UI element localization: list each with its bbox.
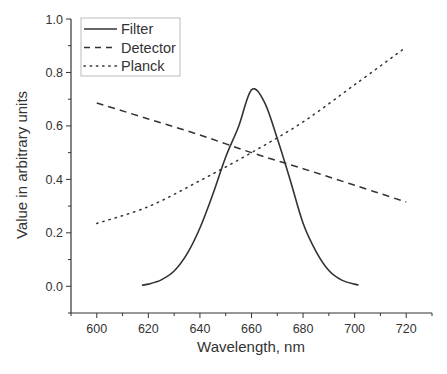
series-group [97,47,406,285]
y-tick-label: 0.0 [46,280,63,294]
x-tick-label: 640 [189,322,210,336]
y-tick-label: 1.0 [46,13,63,27]
series-filter-line [142,89,359,285]
y-axis-title: Value in arbitrary units [13,91,30,239]
line-chart: 6006206406606807007200.00.20.40.60.81.0 … [0,0,447,374]
series-detector-line [97,103,406,202]
legend-label-planck: Planck [121,58,165,74]
x-tick-label: 620 [138,322,159,336]
x-tick-label: 660 [241,322,262,336]
x-tick-label: 700 [344,322,365,336]
legend-label-detector: Detector [121,40,176,56]
legend-label-filter: Filter [121,21,153,37]
y-tick-label: 0.8 [46,66,63,80]
x-axis-title: Wavelength, nm [197,338,305,355]
legend: FilterDetectorPlanck [81,18,180,76]
y-tick-label: 0.2 [46,226,63,240]
x-tick-label: 680 [293,322,314,336]
x-tick-label: 720 [396,322,417,336]
x-tick-label: 600 [86,322,107,336]
y-tick-label: 0.4 [46,173,63,187]
y-tick-label: 0.6 [46,119,63,133]
